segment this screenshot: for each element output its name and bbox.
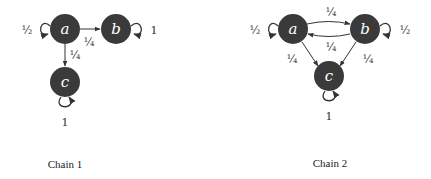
chain2-prob-a-a: ½ xyxy=(250,24,261,37)
svg-text:b: b xyxy=(111,20,121,38)
markov-chains-diagram: ½ ¼ ¼ 1 1 a b c Chain 1 ½ xyxy=(0,0,431,179)
chain1-prob-c-c: 1 xyxy=(62,116,69,129)
chain2-loop-c xyxy=(323,91,335,101)
chain2-prob-a-c: ¼ xyxy=(287,53,298,66)
chain1-loop-c xyxy=(59,97,71,107)
chain1-caption: Chain 1 xyxy=(48,158,83,170)
chain2-prob-b-c: ¼ xyxy=(363,53,374,66)
chain1-loop-b xyxy=(131,23,141,34)
chain2-node-c: c xyxy=(314,61,344,91)
svg-text:a: a xyxy=(61,20,70,38)
chain2-prob-b-b: ½ xyxy=(400,24,411,37)
chain1-prob-a-a: ½ xyxy=(22,24,33,37)
svg-text:c: c xyxy=(61,73,70,91)
svg-text:a: a xyxy=(289,20,298,38)
chain2-edge-a-b xyxy=(307,22,350,25)
chain2-prob-b-a: ¼ xyxy=(326,41,337,54)
chain1-node-a: a xyxy=(50,14,80,44)
chain2-caption: Chain 2 xyxy=(313,157,348,169)
chain2-edge-a-c xyxy=(302,42,318,66)
chain1-node-c: c xyxy=(50,67,80,97)
chain1-loop-a xyxy=(41,23,50,34)
chain2-loop-b xyxy=(380,23,390,34)
chain-2: ½ ¼ ¼ ½ ¼ ¼ 1 a b c Chain 2 xyxy=(250,6,411,170)
chain2-node-b: b xyxy=(350,14,380,44)
chain1-prob-a-c: ¼ xyxy=(70,49,81,62)
chain-1: ½ ¼ ¼ 1 1 a b c Chain 1 xyxy=(22,14,158,170)
chain2-loop-a xyxy=(269,23,278,34)
svg-text:b: b xyxy=(360,20,370,38)
chain2-prob-a-b: ¼ xyxy=(326,6,337,19)
chain1-prob-a-b: ¼ xyxy=(84,36,95,49)
chain2-node-a: a xyxy=(278,14,308,44)
chain2-edge-b-a xyxy=(308,34,350,37)
chain1-node-b: b xyxy=(101,14,131,44)
chain2-prob-c-c: 1 xyxy=(326,110,333,123)
svg-text:c: c xyxy=(325,67,334,85)
chain2-edge-b-c xyxy=(340,42,356,66)
chain1-prob-b-b: 1 xyxy=(151,24,158,37)
